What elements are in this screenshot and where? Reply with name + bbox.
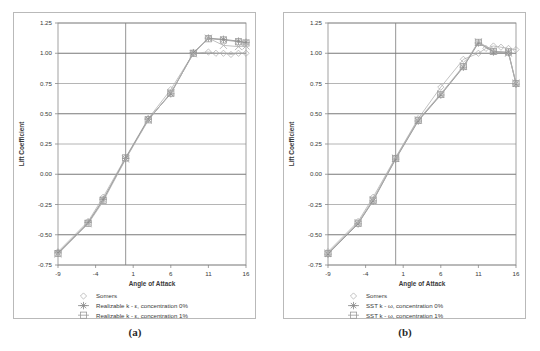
panel-a-frame: -0.75-0.50-0.250.000.250.500.751.001.25-… [13, 12, 256, 319]
panel-a: -0.75-0.50-0.250.000.250.500.751.001.25-… [0, 0, 270, 351]
x-tick-label: 16 [513, 270, 520, 277]
x-axis-title: Angle of Attack [399, 280, 446, 288]
legend-entry: SST k - ω, concentration 1% [348, 312, 444, 319]
y-tick-label: 1.00 [310, 49, 323, 56]
y-axis-title: Lift Coefficient [288, 121, 295, 167]
legend-label: Somers [366, 292, 387, 299]
y-tick-label: 0.75 [40, 80, 53, 87]
x-axis-title: Angle of Attack [129, 280, 176, 288]
legend-entry: Somers [350, 292, 387, 299]
y-tick-label: -0.25 [308, 201, 323, 208]
x-tick-label: -4 [93, 270, 99, 277]
panel-a-chart: -0.75-0.50-0.250.000.250.500.751.001.25-… [14, 13, 257, 320]
data-point-diamond [80, 293, 86, 299]
y-tick-label: 1.25 [40, 19, 53, 26]
x-tick-label: -9 [325, 270, 331, 277]
figure-panel-row: -0.75-0.50-0.250.000.250.500.751.001.25-… [0, 0, 540, 351]
x-tick-label: 11 [475, 270, 482, 277]
legend-entry: Realizable k - ε, concentration 0% [78, 302, 188, 309]
y-axis-title: Lift Coefficient [18, 121, 25, 167]
legend-entry: Realizable k - ε, concentration 1% [78, 312, 188, 319]
y-tick-label: -0.75 [308, 261, 323, 268]
y-tick-label: 0.00 [40, 170, 53, 177]
legend-entry: Somers [80, 292, 117, 299]
y-tick-label: -0.75 [38, 261, 53, 268]
x-tick-label: -9 [55, 270, 61, 277]
legend-label: Realizable k - ε, concentration 1% [96, 312, 188, 319]
y-tick-label: 1.25 [310, 19, 323, 26]
x-tick-label: -4 [363, 270, 369, 277]
x-tick-label: 11 [205, 270, 212, 277]
panel-b-caption: (b) [270, 326, 540, 338]
x-tick-label: 6 [439, 270, 443, 277]
panel-a-caption: (a) [0, 326, 270, 338]
y-tick-label: -0.25 [38, 201, 53, 208]
y-tick-label: 0.50 [40, 110, 53, 117]
marker-diamond [350, 293, 356, 299]
x-tick-label: 16 [243, 270, 250, 277]
y-tick-label: 1.00 [40, 49, 53, 56]
y-tick-label: 0.00 [310, 170, 323, 177]
panel-b-frame: -0.75-0.50-0.250.000.250.500.751.001.25-… [283, 12, 526, 319]
legend-label: SST k - ω, concentration 0% [366, 302, 444, 309]
marker-diamond [80, 293, 86, 299]
y-tick-label: 0.25 [310, 140, 323, 147]
panel-b-chart: -0.75-0.50-0.250.000.250.500.751.001.25-… [284, 13, 527, 320]
data-point-diamond [350, 293, 356, 299]
legend-label: Realizable k - ε, concentration 0% [96, 302, 188, 309]
y-tick-label: 0.25 [40, 140, 53, 147]
x-tick-label: 1 [401, 270, 405, 277]
data-point-asterisk [350, 302, 357, 309]
x-tick-label: 1 [131, 270, 135, 277]
y-tick-label: 0.75 [310, 80, 323, 87]
data-point-asterisk [80, 302, 87, 309]
legend-label: SST k - ω, concentration 1% [366, 312, 444, 319]
legend-entry: SST k - ω, concentration 0% [348, 302, 444, 309]
panel-b: -0.75-0.50-0.250.000.250.500.751.001.25-… [270, 0, 540, 351]
y-tick-label: -0.50 [308, 231, 323, 238]
x-tick-label: 6 [169, 270, 173, 277]
y-tick-label: -0.50 [38, 231, 53, 238]
y-tick-label: 0.50 [310, 110, 323, 117]
legend-label: Somers [96, 292, 117, 299]
